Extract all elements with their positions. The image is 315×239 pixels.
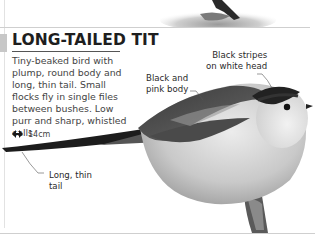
annotation-body-line2: pink body — [146, 84, 188, 95]
annotation-body: Black and pink body — [146, 73, 188, 94]
bottom-rule — [0, 233, 315, 234]
annotation-tail-line2: tail — [49, 181, 92, 192]
annotation-body-line1: Black and — [146, 73, 188, 84]
annotation-tail: Long, thin tail — [49, 170, 92, 191]
annotation-head-line1: Black stripes — [206, 50, 267, 61]
annotation-head: Black stripes on white head — [206, 50, 267, 71]
annotation-tail-line1: Long, thin — [49, 170, 92, 181]
long-tailed-tit-illustration — [0, 0, 315, 239]
annotation-head-line2: on white head — [206, 61, 267, 72]
